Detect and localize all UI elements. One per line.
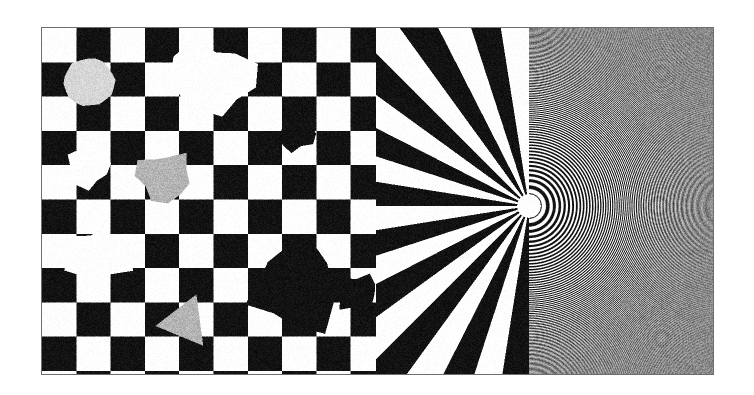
page-root: Monochrome Test Pattern Checkerboard Rad… [0, 0, 754, 395]
test-pattern-canvas [42, 28, 713, 374]
test-pattern-figure [41, 27, 714, 375]
